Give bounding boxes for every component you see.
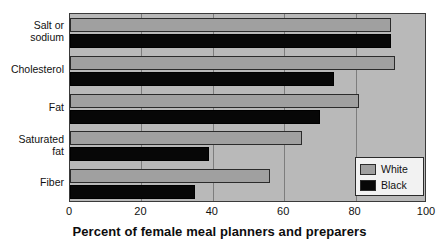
category-label-line2: fat xyxy=(0,146,64,158)
category-label-line1: Salt or xyxy=(0,20,64,32)
category-label-fat: Fat xyxy=(0,102,64,114)
bar-fiber-white xyxy=(70,169,270,183)
bar-saturated-fat-white xyxy=(70,131,302,145)
bar-fiber-black xyxy=(70,185,195,199)
category-label-line1: Cholesterol xyxy=(0,64,64,76)
x-tick-60: 60 xyxy=(277,205,289,217)
legend-label-white: White xyxy=(381,163,408,175)
category-label-cholesterol: Cholesterol xyxy=(0,64,64,76)
bar-cholesterol-white xyxy=(70,56,395,70)
bar-salt-or-sodium-white xyxy=(70,18,391,32)
category-label-line2: sodium xyxy=(0,32,64,44)
x-tick-80: 80 xyxy=(348,205,360,217)
x-tick-20: 20 xyxy=(134,205,146,217)
legend: White Black xyxy=(355,157,424,196)
legend-item-black: Black xyxy=(360,177,420,193)
bar-cholesterol-black xyxy=(70,72,334,86)
x-tick-100: 100 xyxy=(417,205,435,217)
bar-salt-or-sodium-black xyxy=(70,34,391,48)
x-tick-0: 0 xyxy=(66,205,72,217)
category-label-salt-or: Salt orsodium xyxy=(0,20,64,43)
legend-swatch-white-icon xyxy=(360,164,376,175)
bar-saturated-fat-black xyxy=(70,147,209,161)
bar-chart: Salt orsodiumCholesterolFatSaturatedfatF… xyxy=(0,0,439,250)
x-tick-40: 40 xyxy=(206,205,218,217)
x-axis-title: Percent of female meal planners and prep… xyxy=(0,224,439,239)
category-label-saturated: Saturatedfat xyxy=(0,134,64,157)
category-label-line1: Fiber xyxy=(0,177,64,189)
bar-fat-black xyxy=(70,110,320,124)
category-label-line1: Fat xyxy=(0,102,64,114)
legend-item-white: White xyxy=(360,161,420,177)
bar-fat-white xyxy=(70,94,359,108)
legend-label-black: Black xyxy=(381,179,407,191)
legend-swatch-black-icon xyxy=(360,180,376,191)
category-label-line1: Saturated xyxy=(0,134,64,146)
category-label-fiber: Fiber xyxy=(0,177,64,189)
